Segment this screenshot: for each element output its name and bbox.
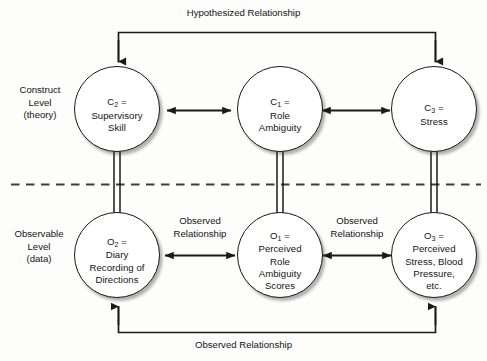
double-line-connector-left: [114, 150, 120, 214]
level-label-construct: Construct Level (theory): [6, 84, 74, 122]
node-o3-text: O3 =Perceived Stress, Blood Pressure, et…: [401, 218, 467, 293]
node-c1-body: Role Ambiguity: [259, 110, 302, 133]
label-hypothesized-relationship: Hypothesized Relationship: [0, 7, 487, 20]
node-o2-header: O2 =: [90, 236, 145, 249]
node-c3-text: C3 =Stress: [416, 90, 452, 128]
double-line-connector-right: [431, 150, 437, 213]
node-c1-text: C1 =Role Ambiguity: [255, 84, 306, 134]
node-c3-header: C3 =: [420, 102, 448, 115]
level-label-observable: Observable Level (data): [2, 228, 76, 266]
bottom-observed-bracket: [119, 306, 436, 333]
label-observed-relationship-right: Observed Relationship: [312, 215, 402, 240]
construct-observable-diagram: Construct Level (theory) Observable Leve…: [0, 0, 487, 361]
node-c2-supervisory-skill[interactable]: C2 =Supervisory Skill: [74, 66, 160, 152]
node-o2-diary-recording[interactable]: O2 =Diary Recording of Directions: [74, 212, 160, 298]
label-observed-relationship-left: Observed Relationship: [155, 215, 245, 240]
double-line-connector-center: [277, 150, 283, 213]
node-c1-header: C1 =: [259, 96, 302, 109]
node-o1-text: O1 =Perceived Role Ambiguity Scores: [254, 218, 305, 293]
node-o2-body: Diary Recording of Directions: [90, 249, 145, 285]
node-c2-text: C2 =Supervisory Skill: [87, 84, 146, 134]
node-c2-body: Supervisory Skill: [91, 110, 142, 133]
top-hypothesized-bracket: [119, 33, 436, 63]
node-o1-perceived-role-ambiguity-scores[interactable]: O1 =Perceived Role Ambiguity Scores: [237, 212, 323, 298]
label-observed-relationship-bottom: Observed Relationship: [0, 339, 487, 352]
node-o1-body: Perceived Role Ambiguity Scores: [258, 243, 301, 291]
node-o3-body: Perceived Stress, Blood Pressure, etc.: [405, 243, 463, 291]
node-c3-stress[interactable]: C3 =Stress: [391, 66, 477, 152]
node-o1-header: O1 =: [258, 230, 301, 243]
diagram-connectors: [0, 0, 487, 361]
node-c1-role-ambiguity[interactable]: C1 =Role Ambiguity: [237, 66, 323, 152]
node-c2-header: C2 =: [91, 96, 142, 109]
node-o3-header: O3 =: [405, 230, 463, 243]
node-c3-body: Stress: [420, 116, 448, 127]
node-o2-text: O2 =Diary Recording of Directions: [86, 224, 149, 286]
node-o3-perceived-stress-blood-pressure[interactable]: O3 =Perceived Stress, Blood Pressure, et…: [391, 212, 477, 298]
